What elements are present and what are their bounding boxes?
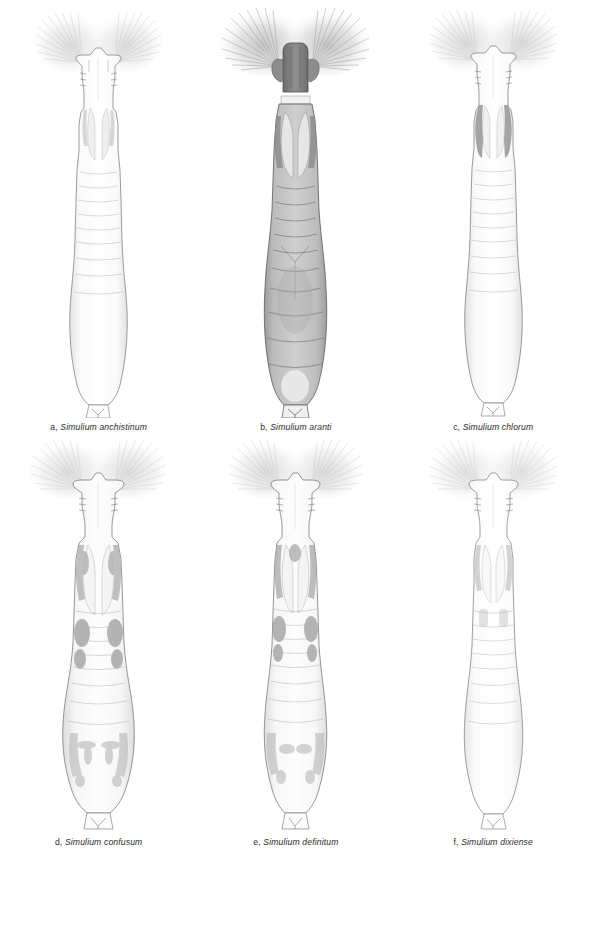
panel-c: c, Simulium chlorum bbox=[395, 0, 592, 433]
anal-sclerite-c bbox=[481, 403, 505, 416]
figure-footer-text bbox=[0, 912, 592, 922]
panel-caption-f: f, Simulium dixiense bbox=[454, 833, 533, 848]
anal-sclerite-b bbox=[282, 405, 309, 418]
anal-sclerite-d bbox=[84, 813, 113, 829]
anal-sclerite-f bbox=[481, 814, 506, 829]
panel-d: d, Simulium confusum bbox=[0, 433, 197, 848]
larva-body-d bbox=[63, 473, 135, 813]
panel-caption-b: b, Simulium aranti bbox=[260, 418, 332, 433]
panel-caption-c: c, Simulium chlorum bbox=[453, 418, 533, 433]
larva-body-b bbox=[265, 43, 327, 405]
figure-plate: a, Simulium anchistinum bbox=[0, 0, 592, 930]
panel-f: f, Simulium dixiense bbox=[395, 433, 592, 848]
larva-illustration-e bbox=[197, 433, 394, 833]
larva-body-f bbox=[464, 473, 522, 814]
anal-sclerite-a bbox=[86, 405, 110, 418]
panel-caption-a: a, Simulium anchistinum bbox=[50, 418, 147, 433]
larva-illustration-c bbox=[395, 0, 592, 418]
panel-caption-e: e, Simulium definitum bbox=[253, 833, 338, 848]
panel-a: a, Simulium anchistinum bbox=[0, 0, 197, 433]
larva-body-a bbox=[70, 48, 127, 405]
larva-illustration-a bbox=[0, 0, 197, 418]
panel-e: e, Simulium definitum bbox=[197, 433, 394, 848]
plate-row-top: a, Simulium anchistinum bbox=[0, 0, 592, 433]
plate-row-bottom: d, Simulium confusum bbox=[0, 433, 592, 848]
larva-body-e bbox=[265, 473, 327, 813]
anal-sclerite-e bbox=[282, 813, 309, 829]
panel-b: b, Simulium aranti bbox=[197, 0, 394, 433]
larva-illustration-f bbox=[395, 433, 592, 833]
panel-caption-d: d, Simulium confusum bbox=[55, 833, 143, 848]
larva-illustration-d bbox=[0, 433, 197, 833]
larva-illustration-b bbox=[197, 0, 394, 418]
larva-body-c bbox=[464, 46, 521, 403]
